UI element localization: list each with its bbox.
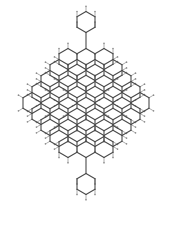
- bond: [86, 189, 95, 194]
- bond: [86, 108, 95, 113]
- hydrogen-atom-label: [58, 157, 60, 159]
- hydrogen-atom-label: [67, 42, 69, 44]
- bond: [104, 126, 113, 131]
- bond: [86, 75, 95, 80]
- hydrogen-atom-label: [126, 137, 128, 139]
- bond: [95, 82, 104, 87]
- bond: [50, 97, 59, 102]
- bond: [77, 130, 86, 135]
- hydrogen-atom-label: [144, 89, 146, 91]
- hydrogen-atom-label: [112, 48, 114, 50]
- hydrogen-atom-label: [135, 126, 137, 128]
- bond: [113, 119, 122, 124]
- bond: [122, 93, 131, 98]
- bond: [131, 108, 140, 113]
- bond: [95, 71, 104, 76]
- hydrogen-atom-label: [126, 143, 128, 145]
- bond: [50, 141, 59, 146]
- hydrogen-bond-stub: [20, 96, 23, 98]
- bond: [104, 49, 113, 54]
- hydrogen-bond-stub: [131, 130, 134, 132]
- bond: [59, 130, 68, 135]
- hydrogen-atom-label: [126, 67, 128, 69]
- bond: [23, 93, 32, 98]
- bond: [68, 126, 77, 131]
- bond: [68, 75, 77, 80]
- bond: [50, 119, 59, 124]
- bond: [68, 130, 77, 135]
- hydrogen-bond-stub: [149, 96, 152, 98]
- bond: [68, 86, 77, 91]
- hydrogen-atom-label: [112, 157, 114, 159]
- bond: [95, 152, 104, 157]
- bond: [122, 97, 131, 102]
- hydrogen-atom-label: [45, 61, 47, 63]
- bond: [68, 60, 77, 65]
- bond: [77, 27, 86, 32]
- bond: [113, 97, 122, 102]
- bond: [77, 64, 86, 69]
- bond: [86, 86, 95, 91]
- bond: [77, 115, 86, 120]
- bond: [104, 82, 113, 87]
- hydrogen-atom-label: [67, 162, 69, 164]
- hydrogen-atom-label: [54, 148, 56, 150]
- bond: [113, 71, 122, 76]
- bond: [59, 93, 68, 98]
- bond: [32, 119, 41, 124]
- bond: [68, 115, 77, 120]
- bond: [131, 82, 140, 87]
- bond: [86, 71, 95, 76]
- hydrogen-atom-label: [36, 72, 38, 74]
- bond: [95, 104, 104, 109]
- hydrogen-atom-label: [36, 132, 38, 134]
- bond: [86, 130, 95, 135]
- bond: [95, 126, 104, 131]
- bond: [86, 152, 95, 157]
- hydrogen-atom-label: [117, 148, 119, 150]
- bond: [86, 137, 95, 142]
- hydrogen-atom-label: [27, 89, 29, 91]
- hydrogen-atom-label: [45, 143, 47, 145]
- bond: [86, 174, 95, 179]
- hydrogen-bond-stub: [29, 85, 32, 87]
- bond: [95, 130, 104, 135]
- bond: [131, 104, 140, 109]
- hydrogen-atom-label: [117, 56, 119, 58]
- bond: [86, 141, 95, 146]
- bond: [113, 86, 122, 91]
- hydrogen-bond-stub: [47, 63, 50, 65]
- hydrogen-atom-label: [27, 121, 29, 123]
- bond: [77, 12, 86, 17]
- bond: [59, 141, 68, 146]
- bond: [59, 152, 68, 157]
- bond: [68, 71, 77, 76]
- bond: [122, 82, 131, 87]
- bond: [77, 126, 86, 131]
- hydrogen-atom-label: [45, 137, 47, 139]
- bond: [104, 71, 113, 76]
- bond: [32, 82, 41, 87]
- bond: [68, 137, 77, 142]
- bond: [95, 64, 104, 69]
- bond: [95, 141, 104, 146]
- hydrogen-atom-label: [103, 162, 105, 164]
- bond: [77, 152, 86, 157]
- bond: [59, 49, 68, 54]
- bond: [77, 86, 86, 91]
- bond: [104, 104, 113, 109]
- bond: [68, 108, 77, 113]
- bond: [59, 104, 68, 109]
- hydrogen-atom-label: [27, 115, 29, 117]
- bond: [95, 97, 104, 102]
- bond: [32, 108, 41, 113]
- bond: [50, 60, 59, 65]
- bond: [113, 104, 122, 109]
- hydrogen-atom-label: [27, 83, 29, 85]
- hydrogen-atom-label: [36, 126, 38, 128]
- bond: [77, 93, 86, 98]
- bond: [23, 108, 32, 113]
- bond: [86, 97, 95, 102]
- hydrogen-bond-stub: [29, 119, 32, 121]
- bond: [104, 97, 113, 102]
